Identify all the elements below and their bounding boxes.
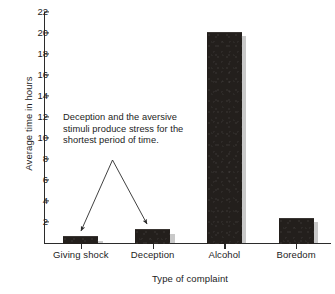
x-tick-label: Alcohol (208, 249, 240, 260)
bar-boredom[interactable] (279, 218, 314, 244)
bar-giving-shock[interactable] (63, 236, 98, 244)
y-tick-label: 22 (12, 7, 48, 17)
bar-chart: Average time in hours 246810121416182022… (0, 0, 335, 294)
y-axis-title: Average time in hours (23, 34, 34, 214)
x-tick-label: Deception (131, 249, 175, 260)
y-tick-label: 20 (12, 28, 48, 38)
x-tick-mark (153, 244, 154, 249)
y-tick-label: 6 (12, 175, 48, 185)
x-axis-title: Type of complaint (45, 273, 335, 284)
x-tick-label: Giving shock (53, 249, 109, 260)
x-tick-mark (224, 244, 225, 249)
y-tick-label: 4 (12, 196, 48, 206)
annotation-line-2: stimuli produce stress for the (63, 124, 223, 136)
annotation-callout: Deception and the aversive stimuli produ… (63, 112, 223, 147)
x-tick-mark (81, 244, 82, 249)
annotation-line-3: shortest period of time. (63, 135, 223, 147)
y-tick-label: 18 (12, 49, 48, 59)
y-tick-label: 2 (12, 217, 48, 227)
annotation-line-1: Deception and the aversive (63, 112, 223, 124)
y-tick-label: 12 (12, 112, 48, 122)
x-tick-label: Boredom (277, 249, 316, 260)
bar-deception[interactable] (135, 229, 170, 244)
x-tick-mark (296, 244, 297, 249)
y-tick-label: 8 (12, 154, 48, 164)
y-tick-label: 10 (12, 133, 48, 143)
y-tick-label: 16 (12, 70, 48, 80)
y-tick-label: 14 (12, 91, 48, 101)
y-axis-line (44, 12, 45, 244)
